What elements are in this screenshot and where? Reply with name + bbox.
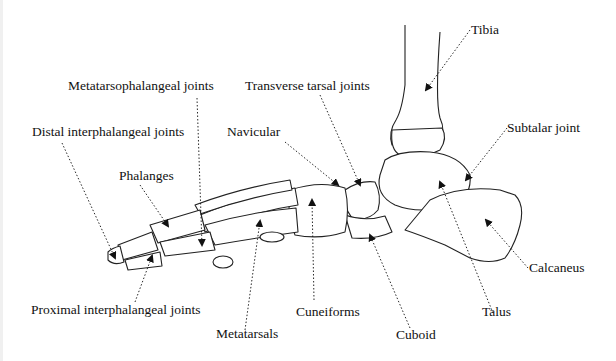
- leader-transverse-tarsal: [320, 95, 360, 185]
- leader-cuboid: [370, 235, 410, 328]
- navicular-bone: [344, 182, 379, 219]
- foot-anatomy-diagram: Tibia Transverse tarsal joints Metatarso…: [0, 0, 616, 361]
- leader-navicular: [285, 142, 338, 185]
- cuboid-bone: [345, 215, 392, 238]
- label-cuneiforms: Cuneiforms: [296, 304, 360, 320]
- label-talus: Talus: [482, 304, 511, 320]
- label-subtalar-joint: Subtalar joint: [507, 120, 580, 136]
- label-navicular: Navicular: [227, 124, 280, 140]
- label-transverse-tarsal-joints: Transverse tarsal joints: [245, 78, 370, 94]
- label-metatarsophalangeal-joints: Metatarsophalangeal joints: [68, 78, 214, 94]
- label-calcaneus: Calcaneus: [529, 260, 584, 276]
- label-proximal-interphalangeal-joints: Proximal interphalangeal joints: [31, 302, 200, 318]
- label-tibia: Tibia: [471, 22, 499, 38]
- label-distal-interphalangeal-joints: Distal interphalangeal joints: [32, 124, 184, 140]
- label-cuboid: Cuboid: [396, 327, 436, 343]
- leader-subtalar: [466, 128, 507, 180]
- label-phalanges: Phalanges: [119, 168, 174, 184]
- leader-distal-interphalangeal: [62, 143, 115, 258]
- leader-phalanges: [140, 185, 168, 226]
- label-metatarsals: Metatarsals: [216, 326, 278, 342]
